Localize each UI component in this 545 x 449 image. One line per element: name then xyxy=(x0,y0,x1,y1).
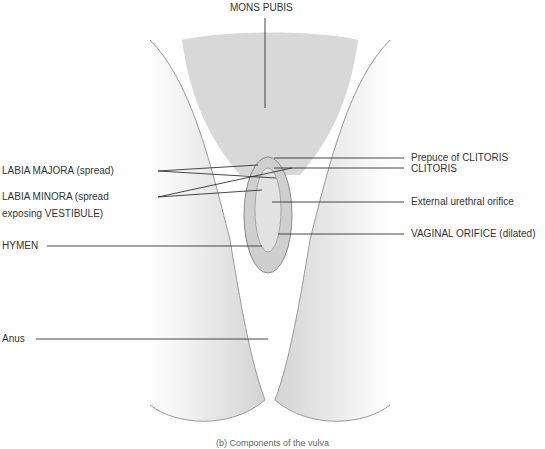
label-labia-minora-line1: LABIA MINORA (spread xyxy=(2,191,109,203)
label-vaginal-orifice: VAGINAL ORIFICE (dilated) xyxy=(411,228,535,240)
label-urethral-orifice: External urethral orifice xyxy=(411,196,514,208)
label-clitoris: CLITORIS xyxy=(411,163,457,175)
label-hymen: HYMEN xyxy=(2,240,38,252)
inner-region xyxy=(255,168,281,252)
label-labia-majora: LABIA MAJORA (spread) xyxy=(2,165,114,177)
label-labia-minora-line2: exposing VESTIBULE) xyxy=(2,208,103,220)
mons-region xyxy=(182,33,358,176)
label-anus: Anus xyxy=(2,333,25,345)
label-mons-pubis: MONS PUBIS xyxy=(230,2,293,14)
figure-caption: (b) Components of the vulva xyxy=(0,438,545,448)
